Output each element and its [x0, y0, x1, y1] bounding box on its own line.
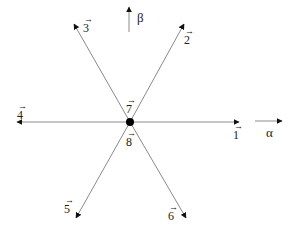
- space-vector-diagram: [0, 0, 296, 231]
- vector-2-label: →2: [182, 29, 192, 46]
- vector-2-line: [130, 24, 184, 122]
- vector-6-label: →6: [166, 205, 176, 222]
- beta-axis-label: β: [137, 11, 144, 24]
- vector-8-label: →8: [124, 131, 134, 148]
- origin-dot: [126, 118, 134, 126]
- vector-7-label: →7: [124, 98, 134, 115]
- vector-4-label: →4: [15, 104, 25, 121]
- vector-5-line: [76, 122, 130, 218]
- alpha-axis-label: α: [266, 126, 273, 139]
- vector-1-label: →1: [231, 124, 241, 141]
- vector-5-label: →5: [62, 198, 72, 215]
- vector-3-label: →3: [81, 17, 91, 34]
- vector-3-line: [74, 24, 130, 122]
